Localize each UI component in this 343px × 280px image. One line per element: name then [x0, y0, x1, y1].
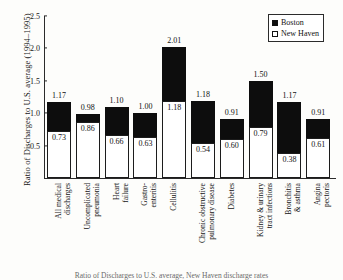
x-tick-label-line: pneumonia: [92, 183, 101, 275]
y-tick-label: 2.5: [30, 11, 40, 20]
x-tick-label-line: & asthma: [294, 183, 303, 275]
x-tick-label-line: Heart: [113, 183, 122, 275]
bar-value-boston: 1.00: [138, 102, 152, 111]
bar-value-new-haven: 0.63: [138, 139, 152, 148]
legend-entry-new-haven: New Haven: [272, 28, 319, 39]
legend-entry-boston: Boston: [272, 17, 319, 28]
x-tick-label: Uncomplicatedpneumonia: [84, 183, 101, 275]
bar-value-new-haven: 0.54: [196, 145, 210, 154]
bar-value-boston: 0.91: [225, 108, 239, 117]
bar-value-new-haven: 0.61: [311, 140, 325, 149]
x-tick-label: Chronic obstructivepulmonary disease: [199, 183, 216, 275]
bar-value-new-haven: 0.73: [52, 133, 66, 142]
x-tick-label: Cellulitis: [170, 183, 179, 275]
x-tick-label: All medicaldischarges: [55, 183, 72, 275]
y-tick-label: 2.0: [30, 44, 40, 53]
legend-label-boston: Boston: [281, 18, 304, 27]
bar-value-boston: 1.18: [196, 90, 210, 99]
x-tick-label-line: Cellulitis: [170, 183, 179, 275]
figure-caption: Ratio of Discharges to U.S. average, New…: [0, 271, 343, 280]
x-tick-label: Anginapectoris: [314, 183, 331, 275]
bar-value-boston: 0.98: [81, 103, 95, 112]
bar-value-boston: 1.10: [110, 96, 124, 105]
x-tick-label-line: failure: [121, 183, 130, 275]
x-tick-label: Bronchitis& asthma: [285, 183, 302, 275]
bar-value-boston: 0.91: [311, 108, 325, 117]
filled-square-icon: [272, 20, 278, 26]
x-tick-label: Diabetes: [228, 183, 237, 275]
y-tick-label: 1.0: [30, 109, 40, 118]
bar-value-new-haven: 0.38: [282, 155, 296, 164]
x-tick-label-line: pectoris: [323, 183, 332, 275]
x-tick-label-line: Kidney & urinary: [257, 183, 266, 275]
y-axis-title: Ratio of Discharges to U.S. average (199…: [22, 16, 32, 186]
legend: Boston New Haven: [268, 14, 324, 42]
x-tick-label: Heartfailure: [113, 183, 130, 275]
bar-value-new-haven: 0.66: [110, 137, 124, 146]
x-tick-label-line: tract infections: [265, 183, 274, 275]
bar-value-new-haven: 0.60: [225, 141, 239, 150]
x-tick-label: Kidney & urinarytract infections: [257, 183, 274, 275]
y-tick-label: 1.5: [30, 76, 40, 85]
bar-value-new-haven: 0.86: [81, 124, 95, 133]
y-tick-label: 0.5: [30, 141, 40, 150]
open-square-icon: [272, 31, 278, 37]
x-tick-label-line: discharges: [64, 183, 73, 275]
x-tick-label: Gastro-enteritis: [141, 183, 158, 275]
bar-value-boston: 2.01: [167, 36, 181, 45]
bar-value-boston: 1.17: [282, 91, 296, 100]
chart-figure: Ratio of Discharges to U.S. average (199…: [0, 0, 343, 280]
bar-value-boston: 1.50: [254, 70, 268, 79]
bar-value-new-haven: 1.18: [167, 103, 181, 112]
bar-segment-new-haven[interactable]: [162, 101, 186, 178]
bar-value-new-haven: 0.79: [254, 129, 268, 138]
legend-label-new-haven: New Haven: [281, 29, 319, 38]
bar-value-boston: 1.17: [52, 91, 66, 100]
x-tick-label-line: enteritis: [150, 183, 159, 275]
x-tick-label-line: pulmonary disease: [208, 183, 217, 275]
x-tick-label-line: Diabetes: [228, 183, 237, 275]
